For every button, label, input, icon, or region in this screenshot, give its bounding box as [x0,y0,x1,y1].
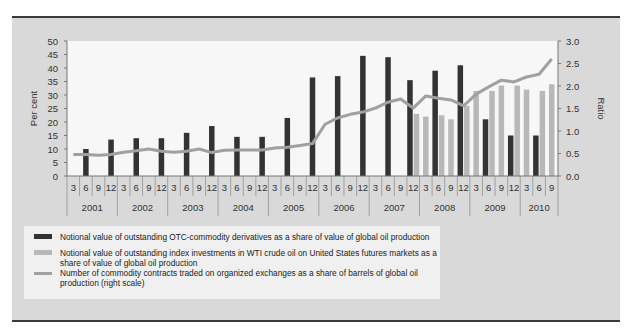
x-quarter-label: 6 [436,182,441,193]
bar-otc [108,140,114,176]
bar-index [473,91,479,176]
bar-otc [335,76,341,176]
bar-index [499,86,505,176]
x-quarter-label: 6 [134,182,139,193]
x-quarter-label: 6 [486,182,491,193]
x-quarter-label: 6 [83,182,88,193]
x-quarter-label: 12 [257,182,268,193]
legend-label: Number of commodity contracts traded on … [60,268,440,288]
x-quarter-label: 9 [398,182,403,193]
bar-index [549,84,555,176]
bar-otc [360,56,366,176]
x-year-label: 2002 [132,202,153,213]
bar-index [514,86,520,176]
x-quarter-label: 6 [335,182,340,193]
bar-index [448,119,454,176]
bar-otc [483,119,489,176]
bar-otc [259,137,265,176]
x-quarter-label: 9 [96,182,101,193]
bar-otc [184,133,190,176]
x-year-label: 2001 [82,202,103,213]
y-tick-label: 0 [53,171,58,182]
x-quarter-label: 3 [71,182,76,193]
x-quarter-label: 12 [206,182,217,193]
bar-index [464,106,470,176]
x-quarter-label: 3 [322,182,327,193]
x-year-label: 2007 [384,202,405,213]
legend-swatch-line [34,272,52,275]
y-tick-label: 20 [47,117,58,128]
bar-index [540,91,546,176]
bar-otc [432,71,438,176]
y-tick-label: 35 [47,76,58,87]
y2-axis-title: Ratio [596,97,607,119]
x-quarter-label: 6 [234,182,239,193]
bar-otc [533,136,539,177]
y2-tick-label: 2.0 [566,81,579,92]
y2-tick-label: 3.0 [566,36,579,47]
legend-swatch-dark [34,234,52,239]
x-quarter-label: 9 [197,182,202,193]
x-quarter-label: 9 [348,182,353,193]
bar-index [414,114,420,176]
bar-otc [407,80,413,176]
x-year-label: 2009 [484,202,505,213]
x-year-label: 2005 [283,202,304,213]
y2-tick-label: 2.5 [566,58,579,69]
x-quarter-label: 3 [121,182,126,193]
x-quarter-label: 9 [297,182,302,193]
x-quarter-label: 3 [524,182,529,193]
bar-index [489,91,495,176]
x-quarter-label: 3 [423,182,428,193]
x-year-label: 2008 [434,202,455,213]
x-quarter-label: 3 [171,182,176,193]
bar-otc [234,137,240,176]
x-quarter-label: 12 [106,182,117,193]
bar-index [423,117,429,176]
x-quarter-label: 9 [549,182,554,193]
y2-tick-label: 1.0 [566,126,579,137]
y-tick-label: 30 [47,90,58,101]
y-tick-label: 10 [47,144,58,155]
x-quarter-label: 3 [222,182,227,193]
legend-swatch-light [34,250,52,255]
y2-tick-label: 0.0 [566,171,579,182]
x-quarter-label: 9 [499,182,504,193]
y-axis-title: Per cent [28,90,39,126]
x-year-label: 2003 [182,202,203,213]
x-quarter-label: 12 [509,182,520,193]
x-quarter-label: 9 [448,182,453,193]
bar-otc [133,138,139,176]
y-tick-label: 40 [47,63,58,74]
x-year-label: 2004 [233,202,254,213]
y2-tick-label: 1.5 [566,103,579,114]
bar-otc [458,65,464,176]
x-quarter-label: 3 [373,182,378,193]
x-quarter-label: 9 [247,182,252,193]
y-tick-label: 25 [47,103,58,114]
y-tick-label: 45 [47,49,58,60]
bar-index [524,90,530,176]
y-tick-label: 50 [47,36,58,47]
x-quarter-label: 3 [474,182,479,193]
x-quarter-label: 6 [184,182,189,193]
bar-otc [159,138,165,176]
y-tick-label: 5 [53,157,58,168]
x-year-label: 2010 [529,202,550,213]
legend: Notional value of outstanding OTC-commod… [24,226,440,299]
x-quarter-label: 12 [408,182,419,193]
x-quarter-label: 6 [285,182,290,193]
x-quarter-label: 3 [272,182,277,193]
x-year-label: 2006 [333,202,354,213]
bar-otc [508,136,514,177]
bar-otc [310,77,316,176]
x-quarter-label: 12 [156,182,167,193]
x-quarter-label: 9 [146,182,151,193]
x-quarter-label: 6 [536,182,541,193]
y-tick-label: 15 [47,130,58,141]
legend-label: Notional value of outstanding index inve… [60,248,440,268]
legend-label: Notional value of outstanding OTC-commod… [60,232,440,242]
x-quarter-label: 12 [307,182,318,193]
y2-tick-label: 0.5 [566,148,579,159]
bar-otc [385,57,391,176]
